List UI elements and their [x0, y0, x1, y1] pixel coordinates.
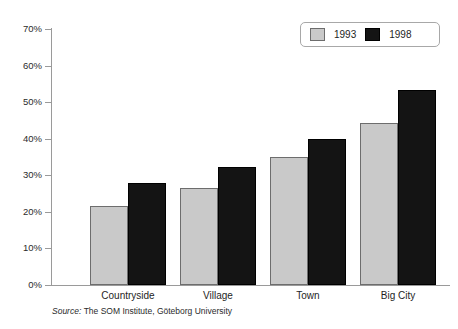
y-axis-tick: [45, 248, 52, 249]
bar-big-city-1993: [360, 123, 398, 285]
bar-big-city-1998: [398, 90, 436, 285]
plot-area: [52, 29, 450, 285]
y-axis-tick-label: 0%: [0, 280, 42, 290]
y-axis-tick-label: 10%: [0, 244, 42, 254]
x-axis-label-big-city: Big City: [340, 291, 456, 301]
bar-group: [180, 29, 256, 285]
y-axis-tick: [45, 212, 52, 213]
bar-chart: 1993 1998 0%10%20%30%40%50%60%70% Countr…: [0, 0, 458, 329]
bar-group: [90, 29, 166, 285]
x-axis-line: [51, 285, 450, 286]
bar-town-1993: [270, 157, 308, 285]
y-axis-tick: [45, 102, 52, 103]
y-axis-tick: [45, 285, 52, 286]
source-keyword: Source:: [52, 306, 81, 316]
y-axis-tick: [45, 66, 52, 67]
y-axis-tick: [45, 29, 52, 30]
bar-village-1998: [218, 167, 256, 285]
source-note: Source: The SOM Institute, Göteborg Univ…: [52, 307, 232, 316]
y-axis-tick: [45, 175, 52, 176]
bar-countryside-1998: [128, 183, 166, 285]
y-axis-tick-label: 40%: [0, 134, 42, 144]
bar-group: [270, 29, 346, 285]
bar-countryside-1993: [90, 206, 128, 285]
y-axis-tick-label: 30%: [0, 171, 42, 181]
y-axis-tick: [45, 139, 52, 140]
y-axis-tick-label: 70%: [0, 24, 42, 34]
y-axis-tick-label: 20%: [0, 207, 42, 217]
bar-town-1998: [308, 139, 346, 285]
bar-village-1993: [180, 188, 218, 285]
source-text: The SOM Institute, Göteborg University: [84, 306, 232, 316]
y-axis-tick-label: 60%: [0, 61, 42, 71]
y-axis-tick-label: 50%: [0, 97, 42, 107]
bar-group: [360, 29, 436, 285]
